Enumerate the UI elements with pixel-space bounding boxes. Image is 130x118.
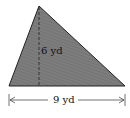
triangle-shape — [9, 6, 125, 86]
base-label: 9 yd — [53, 95, 75, 105]
height-label: 6 yd — [41, 46, 63, 56]
